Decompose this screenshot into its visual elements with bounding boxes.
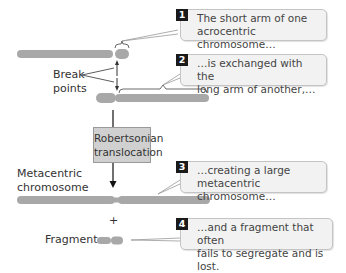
callout-3-leader [158, 184, 180, 194]
plus-sign: + [109, 214, 118, 228]
callout-1: 1 The short arm of one acrocentric chrom… [180, 9, 327, 41]
step-badge-4: 4 [176, 218, 188, 230]
callout-1-leader [122, 30, 178, 41]
fragment [97, 237, 123, 245]
callout-1-line1: The short arm of one [197, 12, 320, 25]
callout-1-line2: acrocentric chromosome… [197, 25, 320, 51]
acrocentric-chromosome-2 [96, 93, 209, 103]
step-badge-1: 1 [176, 9, 188, 21]
callout-4-line2: fails to segregate and is lost. [197, 247, 326, 273]
callout-3-line2: metacentric chromosome… [197, 177, 320, 203]
step-badge-3: 3 [176, 161, 188, 173]
callout-4-leader [131, 238, 180, 240]
callout-2: 2 …is exchanged with the long arm of ano… [180, 54, 327, 86]
acrocentric-chromosome-1 [17, 49, 129, 59]
step-badge-2: 2 [176, 54, 188, 66]
fragment-label: Fragment [45, 233, 98, 247]
break-points-label: Break points [53, 68, 87, 96]
callout-3: 3 …creating a large metacentric chromoso… [180, 161, 327, 193]
callout-2-line1: …is exchanged with the [197, 57, 320, 83]
callout-4-line1: …and a fragment that often [197, 221, 326, 247]
callout-3-line1: …creating a large [197, 164, 320, 177]
callout-4: 4 …and a fragment that often fails to se… [180, 218, 333, 250]
metacentric-chromosome-label: Metacentric chromosome [17, 167, 88, 195]
arrow-head [110, 181, 117, 188]
bracket-short-arm [115, 41, 129, 48]
bracket-long-arm [119, 85, 207, 93]
callout-2-leader [163, 74, 180, 85]
metacentric-chromosome [17, 196, 210, 204]
robertsonian-translocation-box: Robertsonian translocation [93, 127, 151, 163]
callout-2-line2: long arm of another,… [197, 83, 320, 96]
